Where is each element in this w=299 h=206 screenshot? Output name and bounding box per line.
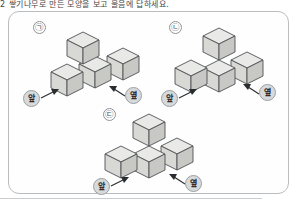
front-direction-chip-digeut: 앞 [93,178,110,195]
cube-nieun-left [175,60,207,92]
cube-digeut-front-center [133,146,165,178]
side-arrow-giyeok [109,86,125,96]
side-direction-chip-digeut: 옆 [185,175,202,192]
panel-tag-digeut: ㉢ [103,108,116,121]
front-arrow-digeut [111,177,129,186]
cube-nieun-front-center [203,60,235,92]
side-arrow-digeut [169,174,185,184]
side-arrow-nieun [243,84,259,94]
panel-tag-nieun: ㉡ [169,21,182,34]
cube-giyeok-back-right [107,48,139,80]
panel-tag-giyeok: ㉠ [33,21,46,34]
bottom-divider-rule [0,198,262,199]
panel-nieun: ㉡ [155,18,280,106]
panel-digeut: ㉢ [81,106,211,194]
cube-digeut-left [105,146,137,178]
cube-figure-illustration: 2 쌓기나무로 만든 모양을 보고 물음에 답하세요. ㉠ [0,0,299,206]
front-arrow-giyeok [41,89,59,98]
figure-outline-box: ㉠ [8,11,289,194]
cube-digeut-top [133,114,165,146]
front-direction-chip-nieun: 앞 [161,90,178,107]
cube-nieun-top [203,28,235,60]
front-direction-chip-giyeok: 앞 [23,90,40,107]
exercise-prompt-text: 2 쌓기나무로 만든 모양을 보고 물음에 답하세요. [0,0,299,9]
cube-nieun-back-right [231,52,263,84]
cube-digeut-back-right [161,138,193,170]
side-direction-chip-giyeok: 옆 [125,87,142,104]
side-direction-chip-nieun: 옆 [259,84,276,101]
panel-giyeok: ㉠ [19,18,144,106]
